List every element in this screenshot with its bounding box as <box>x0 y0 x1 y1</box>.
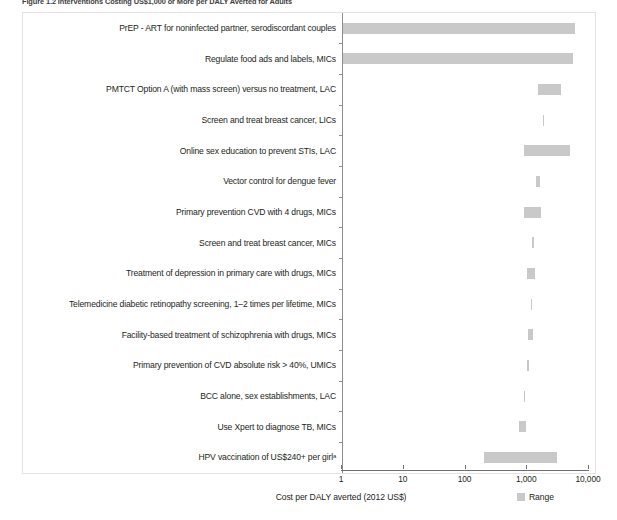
chart-rows-area: PrEP - ART for noninfected partner, sero… <box>23 13 595 473</box>
x-axis-tick-label: 100 <box>458 474 472 484</box>
range-bar <box>524 145 570 156</box>
figure-caption: Figure 1.2 Interventions Costing US$1,00… <box>22 0 582 7</box>
chart-row: Online sex education to prevent STIs, LA… <box>23 136 595 167</box>
chart-row: Screen and treat breast cancer, LICs <box>23 105 595 136</box>
chart-row: Treatment of depression in primary care … <box>23 258 595 289</box>
range-bar <box>342 23 575 34</box>
x-axis-tick-label: 1,000 <box>516 474 536 484</box>
x-axis-tick <box>588 465 589 469</box>
range-bar <box>524 207 541 218</box>
row-label: PrEP - ART for noninfected partner, sero… <box>119 13 336 44</box>
y-axis-line <box>342 13 343 473</box>
chart-row: Regulate food ads and labels, MICs <box>23 44 595 75</box>
chart-row: Telemedicine diabetic retinopathy screen… <box>23 289 595 320</box>
range-bar <box>524 391 525 402</box>
row-label: Facility-based treatment of schizophreni… <box>122 320 336 351</box>
chart-row: BCC alone, sex establishments, LAC <box>23 381 595 412</box>
range-bar <box>484 452 557 463</box>
chart-row: PrEP - ART for noninfected partner, sero… <box>23 13 595 44</box>
chart-row: HPV vaccination of US$240+ per girlᵃ <box>23 442 595 473</box>
x-axis-title: Cost per DALY averted (2012 US$) <box>276 492 407 502</box>
chart-row: PMTCT Option A (with mass screen) versus… <box>23 74 595 105</box>
legend-swatch-range <box>517 493 525 501</box>
row-label: Online sex education to prevent STIs, LA… <box>180 136 336 167</box>
chart-row: Facility-based treatment of schizophreni… <box>23 320 595 351</box>
range-bar <box>342 53 573 64</box>
row-label: Primary prevention CVD with 4 drugs, MIC… <box>176 197 336 228</box>
range-bar <box>543 115 544 126</box>
range-bar <box>519 421 526 432</box>
x-axis-tick-label: 1 <box>339 474 344 484</box>
row-label: Primary prevention of CVD absolute risk … <box>133 350 336 381</box>
range-bar <box>527 360 528 371</box>
chart-row: Vector control for dengue fever <box>23 166 595 197</box>
row-label: Treatment of depression in primary care … <box>126 258 336 289</box>
chart-legend: Range <box>517 492 554 502</box>
chart-row: Screen and treat breast cancer, MICs <box>23 228 595 259</box>
row-label: BCC alone, sex establishments, LAC <box>200 381 336 412</box>
row-label: Screen and treat breast cancer, MICs <box>199 228 336 259</box>
chart-row: Primary prevention CVD with 4 drugs, MIC… <box>23 197 595 228</box>
chart-plot-frame: PrEP - ART for noninfected partner, sero… <box>22 12 596 474</box>
x-axis-tick <box>526 465 527 469</box>
range-bar <box>532 237 533 248</box>
x-axis-tick <box>403 465 404 469</box>
range-bar <box>531 299 532 310</box>
chart-row: Use Xpert to diagnose TB, MICs <box>23 412 595 443</box>
range-bar <box>528 329 533 340</box>
row-label: Screen and treat breast cancer, LICs <box>201 105 336 136</box>
range-bar <box>536 176 540 187</box>
x-axis-line <box>341 470 589 471</box>
range-bar <box>527 268 534 279</box>
x-axis-tick-label: 10 <box>398 474 407 484</box>
x-axis-tick-label: 10,000 <box>575 474 600 484</box>
x-axis-tick <box>465 465 466 469</box>
chart-row: Primary prevention of CVD absolute risk … <box>23 350 595 381</box>
row-label: HPV vaccination of US$240+ per girlᵃ <box>198 442 336 473</box>
row-label: Vector control for dengue fever <box>223 166 336 197</box>
row-label: Telemedicine diabetic retinopathy screen… <box>69 289 336 320</box>
row-label: Regulate food ads and labels, MICs <box>205 44 336 75</box>
x-axis-tick <box>341 465 342 469</box>
row-label: Use Xpert to diagnose TB, MICs <box>217 412 336 443</box>
range-bar <box>538 84 561 95</box>
legend-label-range: Range <box>529 492 554 502</box>
row-label: PMTCT Option A (with mass screen) versus… <box>106 74 336 105</box>
